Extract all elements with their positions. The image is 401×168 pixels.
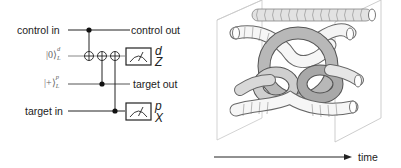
control-out-label: control out [131,24,180,36]
time-arrow [214,154,352,160]
logical-zero-ket: |0⟩dL [46,49,57,60]
ket-zero: |0⟩ [46,49,57,60]
braid-illustration [217,0,381,142]
logical-plus-ket: |+⟩pL [44,77,56,88]
meter-icon-x [126,103,151,120]
cnot-targets [85,52,120,61]
ket-plus-sup: p [56,73,59,80]
measure-z-basis: Z [155,57,162,67]
ket-plus-sub: L [56,82,60,89]
target-out-label: target out [133,78,177,90]
ket-zero-sub: L [57,54,61,61]
target-in-label: target in [25,105,63,117]
circuit-diagram [0,0,401,168]
meter-icon-z [126,48,151,65]
ket-plus: |+⟩ [44,77,56,88]
control-in-label: control in [17,24,60,36]
measure-p-name: p [155,101,162,111]
time-axis-label: time [358,151,378,163]
measure-x-basis: X [155,113,163,123]
ket-zero-sup: d [57,45,60,52]
